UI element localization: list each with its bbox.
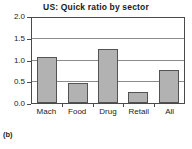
- bar-drug[interactable]: [98, 49, 118, 103]
- x-axis-label-all: All: [154, 107, 185, 116]
- bar-mach[interactable]: [37, 57, 57, 103]
- bar-slot: [123, 18, 153, 103]
- bar-slot: [93, 18, 123, 103]
- y-axis-label: 0.5: [14, 78, 25, 86]
- bar-slot: [32, 18, 62, 103]
- bar-series: [32, 18, 184, 103]
- y-axis: 0.00.51.01.52.0: [0, 17, 28, 104]
- y-axis-label: 1.0: [14, 57, 25, 65]
- bar-slot: [154, 18, 184, 103]
- x-axis: MachFoodDrugRetailAll: [31, 107, 185, 116]
- chart-title: US: Quick ratio by sector: [0, 2, 192, 12]
- plot-area: [31, 17, 185, 104]
- x-axis-label-food: Food: [62, 107, 93, 116]
- y-axis-label: 1.5: [14, 35, 25, 43]
- y-axis-label: 2.0: [14, 13, 25, 21]
- bar-slot: [62, 18, 92, 103]
- x-axis-label-mach: Mach: [31, 107, 62, 116]
- bar-food[interactable]: [68, 83, 88, 103]
- bar-all[interactable]: [159, 70, 179, 103]
- x-axis-label-retail: Retail: [123, 107, 154, 116]
- x-axis-label-drug: Drug: [93, 107, 124, 116]
- y-axis-label: 0.0: [14, 100, 25, 108]
- figure-panel: US: Quick ratio by sector 0.00.51.01.52.…: [0, 0, 192, 149]
- bar-retail[interactable]: [128, 92, 148, 103]
- panel-caption: (b): [3, 130, 13, 139]
